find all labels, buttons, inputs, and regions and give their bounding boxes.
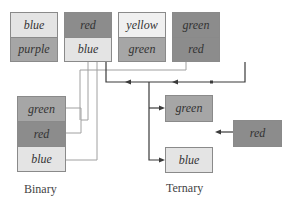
binary-item-blue: blue [17, 146, 66, 172]
top-box-2-top: red [64, 12, 112, 38]
binary-caption: Binary [24, 182, 57, 197]
top-box-1-top: blue [10, 12, 58, 38]
top-box-4-bottom: red [172, 37, 220, 62]
top-box-1-bottom: purple [10, 37, 58, 62]
top-box-3-bottom: green [118, 37, 166, 62]
ternary-item-blue: blue [165, 147, 213, 173]
top-box-2-bottom: blue [64, 37, 112, 62]
ternary-caption: Ternary [166, 181, 203, 196]
ternary-item-green: green [165, 95, 213, 122]
binary-item-red: red [17, 121, 66, 147]
top-box-4-top: green [172, 12, 220, 38]
ternary-input-red: red [233, 120, 282, 147]
top-box-3-top: yellow [118, 12, 166, 38]
binary-item-green: green [17, 96, 66, 122]
